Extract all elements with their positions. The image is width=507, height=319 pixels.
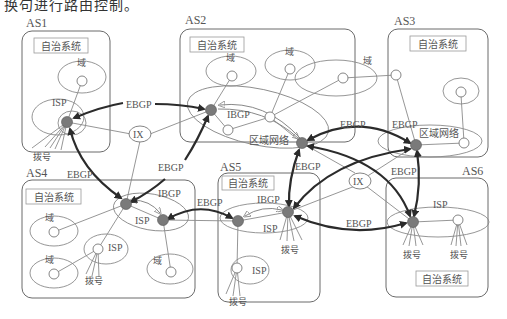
domain-label: 域 xyxy=(226,52,235,63)
dialup-label: 拨号 xyxy=(229,296,247,307)
isp-label: ISP xyxy=(433,199,448,210)
as4-label: AS4 xyxy=(26,166,47,180)
as5-border-router-a xyxy=(233,216,244,227)
regional-network-label: 区域网络 xyxy=(419,127,459,139)
ebgp-links xyxy=(70,103,419,230)
as4-border-router-a xyxy=(121,199,132,210)
ebgp-label: EBGP xyxy=(392,119,418,130)
ibgp-label: IBGP xyxy=(257,194,280,205)
as5-label: AS5 xyxy=(220,160,241,174)
bgp-as-diagram: AS1 自治系统 AS2 自治系统 AS3 自治系统 AS4 自治系统 AS5 … xyxy=(0,0,507,319)
as1-border-router xyxy=(62,117,73,128)
dialup-label: 拨号 xyxy=(281,244,299,255)
domain-label: 域 xyxy=(77,57,86,68)
as3-border-router xyxy=(411,140,422,151)
as5-tag: 自治系统 xyxy=(228,177,268,189)
as3-label: AS3 xyxy=(394,14,415,28)
as6-tag: 自治系统 xyxy=(422,273,462,285)
dialup-label: 拨号 xyxy=(85,275,103,286)
as3-tag: 自治系统 xyxy=(418,38,458,50)
as2-border-router-a xyxy=(206,105,217,116)
as2-tag: 自治系统 xyxy=(197,39,237,51)
ibgp-label: IBGP xyxy=(227,109,250,120)
domain-label: 域 xyxy=(153,255,162,266)
ibgp-label: IBGP xyxy=(158,188,181,199)
as4-tag: 自治系统 xyxy=(34,191,74,203)
dialup-label: 拨号 xyxy=(403,249,421,260)
isp-label: ISP xyxy=(252,265,267,276)
domain-label: 域 xyxy=(45,212,54,223)
ebgp-label: EBGP xyxy=(158,162,184,173)
as6-label: AS6 xyxy=(462,164,483,178)
ebgp-label: EBGP xyxy=(67,169,93,180)
as1-label: AS1 xyxy=(26,16,47,30)
ix-center-label: IX xyxy=(353,176,364,187)
ebgp-label: EBGP xyxy=(197,197,223,208)
ebgp-label: EBGP xyxy=(340,119,366,130)
as4-border-router-b xyxy=(158,215,169,226)
as6-border-router xyxy=(408,217,419,228)
regional-network-label: 区域网络 xyxy=(249,134,289,146)
ebgp-label: EBGP xyxy=(295,161,321,172)
ebgp-label: EBGP xyxy=(391,166,417,177)
as1-box: AS1 自治系统 xyxy=(22,16,110,152)
domain-label: 域 xyxy=(363,55,372,66)
domain-label: 域 xyxy=(45,254,54,265)
ebgp-label: EBGP xyxy=(126,99,152,110)
as1-tag: 自治系统 xyxy=(41,40,81,52)
isp-label: ISP xyxy=(108,242,123,253)
dialup-label: 拨号 xyxy=(450,249,468,260)
ix-left-label: IX xyxy=(133,129,144,140)
as2-label: AS2 xyxy=(185,13,206,27)
dialup-label: 拨号 xyxy=(33,151,51,162)
as2-border-router-b xyxy=(297,138,308,149)
domain-label: 域 xyxy=(285,46,294,57)
isp-label: ISP xyxy=(135,215,150,226)
isp-label: ISP xyxy=(263,223,278,234)
isp-label: ISP xyxy=(52,97,67,108)
as6-box: AS6 自治系统 xyxy=(386,164,488,297)
ebgp-label: EBGP xyxy=(346,218,372,229)
as5-border-router-b xyxy=(283,207,294,218)
